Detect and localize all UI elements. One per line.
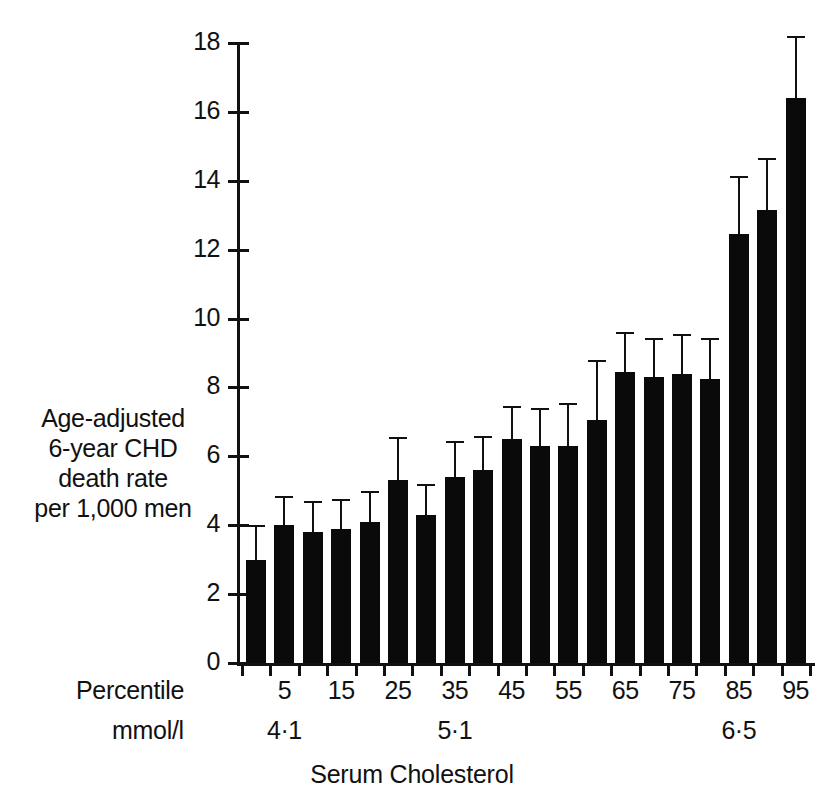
x-tick — [781, 663, 784, 676]
x-tick — [411, 663, 414, 676]
error-bar-line — [709, 338, 711, 379]
error-bar-line — [681, 334, 683, 374]
y-tick-label-8: 8 — [170, 373, 220, 398]
y-tick-label-14: 14 — [170, 167, 220, 192]
percentile-tick-label-35: 35 — [432, 676, 478, 705]
x-tick — [695, 663, 698, 676]
percentile-tick-label-5: 5 — [261, 676, 307, 705]
bar — [303, 532, 323, 663]
error-bar-line — [624, 332, 626, 372]
y-tick-label-18: 18 — [170, 29, 220, 54]
y-tick-label-2: 2 — [170, 580, 220, 605]
bar — [246, 560, 266, 663]
bar — [360, 522, 380, 663]
error-bar-line — [539, 408, 541, 446]
error-bar-line — [397, 437, 399, 480]
x-tick — [298, 663, 301, 676]
y-tick-label-6: 6 — [170, 442, 220, 467]
percentile-row-label: Percentile — [76, 676, 184, 705]
error-bar-cap — [531, 408, 549, 410]
y-tick-6 — [228, 455, 249, 458]
y-tick-14 — [228, 180, 249, 183]
error-bar-cap — [701, 338, 719, 340]
x-tick — [667, 663, 670, 676]
mmol-tick-label-6·5: 6·5 — [709, 716, 769, 745]
percentile-tick-label-25: 25 — [375, 676, 421, 705]
y-tick-4 — [228, 524, 249, 527]
percentile-tick-label-15: 15 — [318, 676, 364, 705]
error-bar-line — [766, 158, 768, 210]
bar — [786, 98, 806, 663]
y-tick-12 — [228, 249, 249, 252]
percentile-tick-label-85: 85 — [716, 676, 762, 705]
error-bar-cap — [673, 334, 691, 336]
error-bar-line — [369, 491, 371, 522]
error-bar-cap — [503, 406, 521, 408]
x-tick — [468, 663, 471, 676]
error-bar-line — [653, 338, 655, 378]
y-tick-label-4: 4 — [170, 511, 220, 536]
error-bar-line — [596, 360, 598, 420]
y-axis-line — [237, 43, 240, 665]
error-bar-cap — [417, 484, 435, 486]
bar — [615, 372, 635, 663]
bar — [445, 477, 465, 663]
error-bar-cap — [730, 176, 748, 178]
bar — [558, 446, 578, 663]
y-tick-10 — [228, 318, 249, 321]
bar — [502, 439, 522, 663]
bar — [757, 210, 777, 663]
error-bar-cap — [787, 36, 805, 38]
bar — [587, 420, 607, 663]
y-tick-16 — [228, 111, 249, 114]
error-bar-line — [425, 484, 427, 515]
y-tick-label-12: 12 — [170, 236, 220, 261]
mmol-tick-label-4·1: 4·1 — [254, 716, 314, 745]
error-bar-cap — [645, 338, 663, 340]
error-bar-line — [255, 525, 257, 559]
error-bar-line — [283, 496, 285, 525]
percentile-tick-label-95: 95 — [773, 676, 819, 705]
x-tick — [639, 663, 642, 676]
y-tick-18 — [228, 42, 249, 45]
x-tick — [355, 663, 358, 676]
error-bar-cap — [332, 499, 350, 501]
bar — [416, 515, 436, 663]
error-bar-cap — [389, 437, 407, 439]
x-tick — [383, 663, 386, 676]
mmol-row-label: mmol/l — [112, 716, 184, 745]
bar — [274, 525, 294, 663]
error-bar-cap — [275, 496, 293, 498]
y-tick-8 — [228, 386, 249, 389]
error-bar-cap — [588, 360, 606, 362]
x-tick — [809, 663, 812, 676]
x-tick — [326, 663, 329, 676]
error-bar-cap — [559, 403, 577, 405]
x-axis-title: Serum Cholesterol — [0, 760, 824, 789]
error-bar-cap — [304, 501, 322, 503]
error-bar-cap — [758, 158, 776, 160]
x-tick — [610, 663, 613, 676]
y-axis-title-line-1: Age-adjusted — [8, 403, 218, 433]
percentile-tick-label-45: 45 — [489, 676, 535, 705]
y-tick-label-0: 0 — [170, 649, 220, 674]
error-bar-line — [738, 176, 740, 235]
bar — [473, 470, 493, 663]
bar — [644, 377, 664, 663]
x-tick — [440, 663, 443, 676]
error-bar-line — [795, 36, 797, 98]
x-tick — [724, 663, 727, 676]
bar — [672, 374, 692, 663]
x-tick — [752, 663, 755, 676]
error-bar-line — [340, 499, 342, 528]
bar — [530, 446, 550, 663]
error-bar-cap — [446, 441, 464, 443]
bar — [331, 529, 351, 663]
y-tick-label-16: 16 — [170, 98, 220, 123]
bar — [729, 234, 749, 663]
bar — [700, 379, 720, 663]
x-tick — [582, 663, 585, 676]
x-tick — [497, 663, 500, 676]
error-bar-cap — [474, 436, 492, 438]
error-bar-cap — [361, 491, 379, 493]
